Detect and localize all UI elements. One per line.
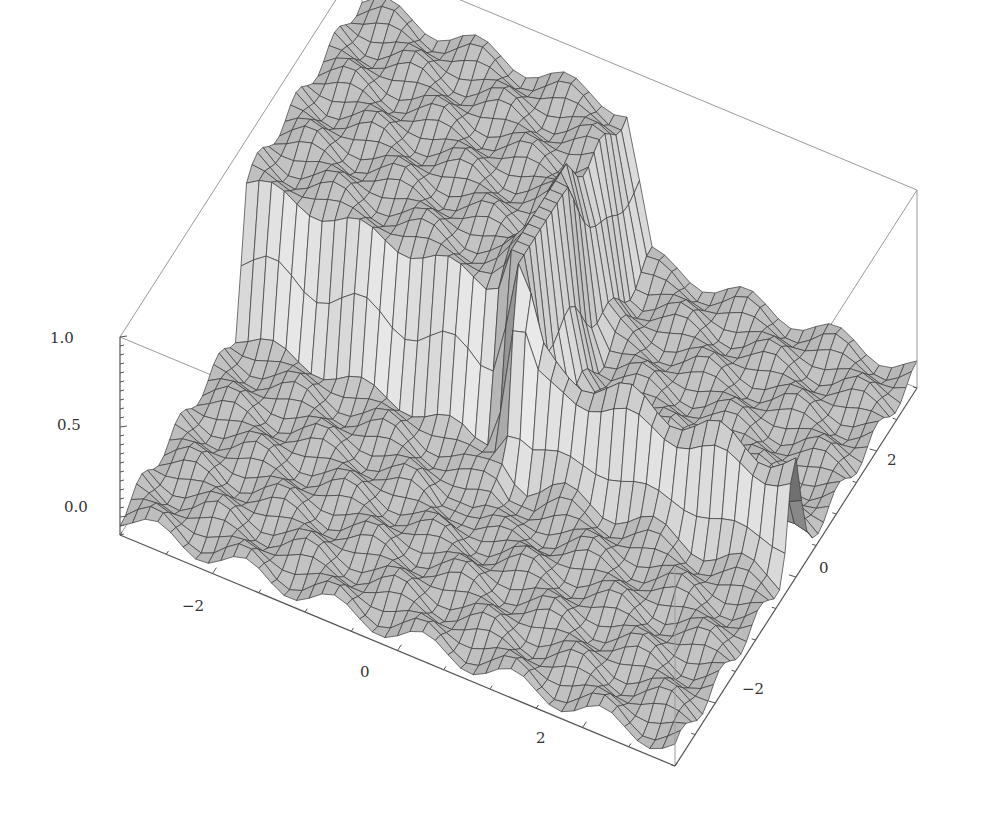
- z-tick-label-1.0: 1.0: [50, 329, 74, 347]
- y-tick: [789, 575, 796, 577]
- surface-mesh: [120, 0, 917, 749]
- z-tick-label-0.0: 0.0: [64, 498, 88, 516]
- x-tick: [583, 722, 587, 728]
- y-tick: [853, 481, 857, 482]
- y-tick: [832, 513, 836, 514]
- y-tick-label-0: 0: [819, 559, 829, 577]
- x-tick-label-2: 2: [536, 729, 546, 747]
- surface-plot: 1.0 0.5 0.0 −2 0 2 2 0 −2: [0, 0, 990, 814]
- x-tick: [398, 645, 402, 651]
- y-tick: [691, 733, 695, 734]
- y-tick: [913, 387, 917, 388]
- y-tick: [812, 544, 816, 545]
- y-tick-label-2: 2: [887, 451, 897, 469]
- x-tick: [166, 551, 168, 554]
- x-tick-label-neg2: −2: [182, 597, 204, 615]
- x-tick: [490, 686, 492, 689]
- x-tick: [259, 589, 261, 592]
- y-tick: [870, 449, 877, 451]
- x-tick: [536, 705, 538, 708]
- x-tick-label-0: 0: [360, 663, 370, 681]
- y-tick: [732, 670, 736, 671]
- y-tick-label-neg2: −2: [742, 680, 764, 698]
- y-tick: [893, 418, 897, 419]
- x-tick: [629, 743, 631, 746]
- z-tick-label-0.5: 0.5: [57, 416, 81, 434]
- y-tick: [708, 701, 715, 703]
- x-tick: [213, 568, 217, 574]
- y-tick: [772, 607, 776, 608]
- x-tick: [305, 609, 307, 612]
- x-tick: [444, 666, 446, 669]
- y-tick: [752, 639, 756, 640]
- z-tick: [120, 426, 127, 427]
- y-tick: [671, 765, 675, 766]
- x-tick: [351, 628, 353, 631]
